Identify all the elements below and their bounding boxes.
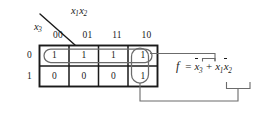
kmap-cell-r0-c3: 1	[128, 51, 158, 61]
kmap-cell-r0-c1: 1	[69, 51, 99, 61]
column-variable-sub-1: 1	[75, 10, 79, 18]
equation-equals-sign: =	[182, 60, 194, 72]
row-variable-sub: 3	[38, 26, 42, 34]
kmap-cell-r1-c3: 1	[128, 72, 158, 82]
equation-term-x3-bar: x3	[195, 60, 203, 72]
kmap-cell-r0-c0: 1	[40, 51, 70, 61]
equation-term1-sub: 3	[199, 67, 203, 75]
equation-plus-sign: +	[203, 60, 215, 72]
column-header-10: 10	[136, 31, 158, 41]
equation-term-x2-bar: x2	[224, 60, 232, 72]
equation-term2a-sub: 1	[220, 67, 224, 75]
column-variable-label: x1x2	[71, 6, 88, 17]
row-header-1: 1	[24, 72, 35, 82]
row-header-0: 0	[24, 51, 35, 61]
kmap-cell-r0-c2: 1	[99, 51, 129, 61]
column-header-00: 00	[47, 31, 69, 41]
kmap-cell-r1-c1: 0	[69, 72, 99, 82]
column-variable-sub-2: 2	[83, 10, 87, 18]
kmap-cell-r1-c0: 0	[40, 72, 70, 82]
karnaugh-map-figure: x1x2 x3 00 01 11 10 0 1 1 1 1 1 0 0 0 1 …	[0, 0, 266, 116]
kmap-cell-r1-c2: 0	[99, 72, 129, 82]
row-variable-label: x3	[34, 22, 42, 33]
boolean-equation: f=x3+x1x2	[176, 59, 232, 74]
bracket-x1x2bar	[227, 82, 251, 89]
equation-term-x1: x1	[215, 60, 223, 72]
column-header-11: 11	[106, 31, 128, 41]
column-header-01: 01	[77, 31, 99, 41]
equation-term2b-sub: 2	[228, 67, 232, 75]
